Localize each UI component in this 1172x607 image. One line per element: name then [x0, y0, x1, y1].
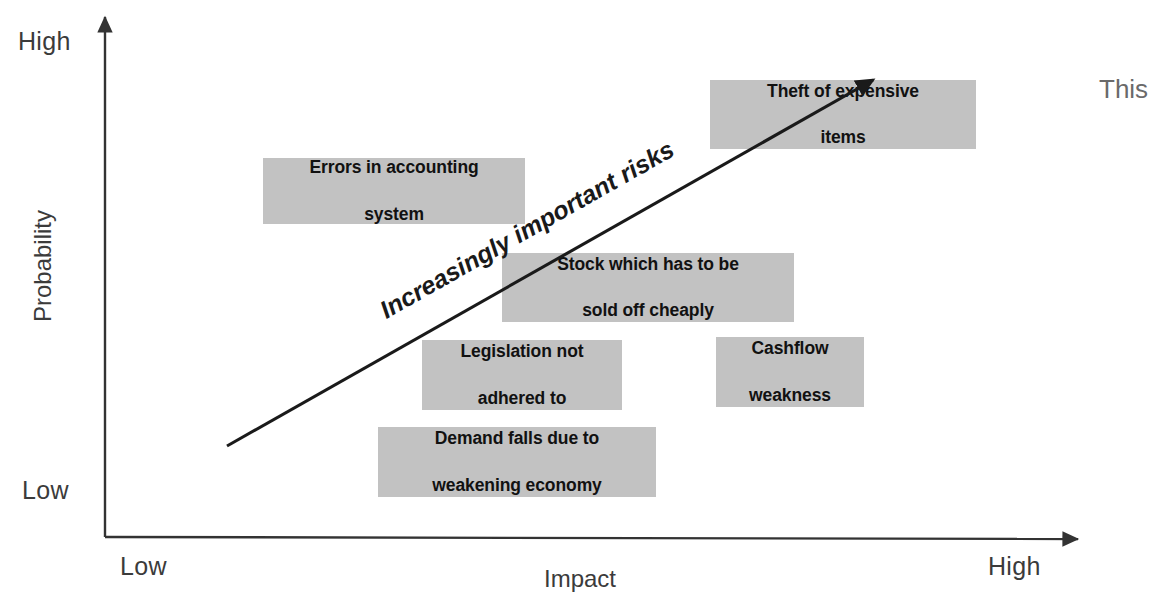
risk-box-errors-accounting[interactable]: Errors in accounting system: [263, 158, 525, 224]
y-axis-title: Probability: [29, 191, 57, 341]
y-axis-low-label: Low: [22, 476, 69, 505]
risk-label-line-1: Legislation not: [428, 340, 616, 363]
x-axis-title: Impact: [500, 565, 660, 593]
risk-label-line-1: Errors in accounting: [269, 156, 519, 179]
risk-label-line-1: Stock which has to be: [508, 253, 788, 276]
x-axis-low-label: Low: [120, 552, 167, 581]
risk-label-cashflow: Cashflow weakness: [722, 337, 858, 406]
risk-label-line-2: items: [716, 126, 970, 149]
risk-label-legislation: Legislation not adhered to: [428, 340, 616, 409]
risk-label-line-2: sold off cheaply: [508, 299, 788, 322]
risk-label-line-1: Cashflow: [722, 337, 858, 360]
risk-box-legislation[interactable]: Legislation not adhered to: [422, 340, 622, 410]
risk-matrix-diagram: High Low Low High Probability Impact Err…: [0, 0, 1172, 607]
risk-label-line-2: system: [269, 203, 519, 226]
risk-label-errors-accounting: Errors in accounting system: [269, 156, 519, 225]
side-text: This: [1099, 74, 1148, 105]
y-axis-high-label: High: [18, 27, 71, 56]
risk-label-line-1: Demand falls due to: [384, 427, 650, 450]
risk-label-line-2: adhered to: [428, 387, 616, 410]
risk-box-cashflow[interactable]: Cashflow weakness: [716, 337, 864, 407]
risk-label-theft-expensive: Theft of expensive items: [716, 80, 970, 149]
risk-label-line-2: weakness: [722, 384, 858, 407]
x-axis-line: [105, 537, 1078, 539]
risk-box-demand-falls[interactable]: Demand falls due to weakening economy: [378, 427, 656, 497]
risk-label-line-1: Theft of expensive: [716, 80, 970, 103]
x-axis-high-label: High: [988, 552, 1041, 581]
risk-label-stock-sold-off: Stock which has to be sold off cheaply: [508, 253, 788, 322]
risk-box-stock-sold-off[interactable]: Stock which has to be sold off cheaply: [502, 253, 794, 322]
risk-label-line-2: weakening economy: [384, 474, 650, 497]
risk-box-theft-expensive[interactable]: Theft of expensive items: [710, 80, 976, 149]
risk-label-demand-falls: Demand falls due to weakening economy: [384, 427, 650, 496]
